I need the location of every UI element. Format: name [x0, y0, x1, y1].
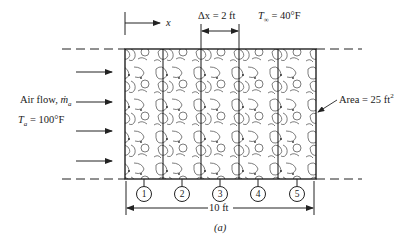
t-infinity-label: T∞ = 40°F	[258, 11, 301, 24]
node-5: 5	[289, 186, 305, 202]
air-flow-label: Air flow, ṁa	[20, 95, 72, 108]
bed-fill	[125, 49, 316, 179]
delta-x-label: Δx = 2 ft	[198, 11, 235, 22]
node-4: 4	[250, 186, 266, 202]
length-label: 10 ft	[209, 203, 229, 214]
area-label: Area = 25 ft2	[339, 93, 394, 105]
node-1: 1	[136, 186, 152, 202]
air-temperature-label: Ta = 100°F	[18, 115, 64, 128]
node-2: 2	[174, 186, 190, 202]
air-flow-arrows	[76, 72, 112, 161]
figure-caption: (a)	[214, 223, 226, 234]
node-3: 3	[212, 186, 228, 202]
x-axis-label: x	[166, 18, 171, 29]
